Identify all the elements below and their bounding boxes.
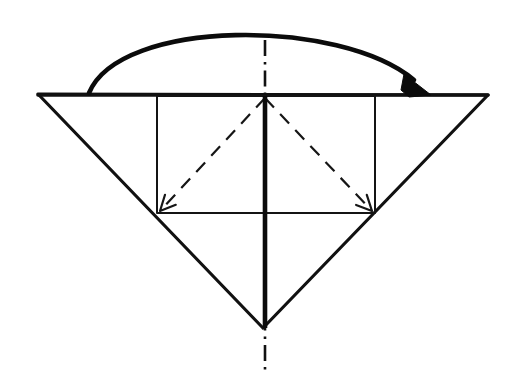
diagram-background: [0, 0, 511, 391]
fold-diagram-canvas: [0, 0, 511, 391]
origami-fold-diagram: [0, 0, 511, 391]
